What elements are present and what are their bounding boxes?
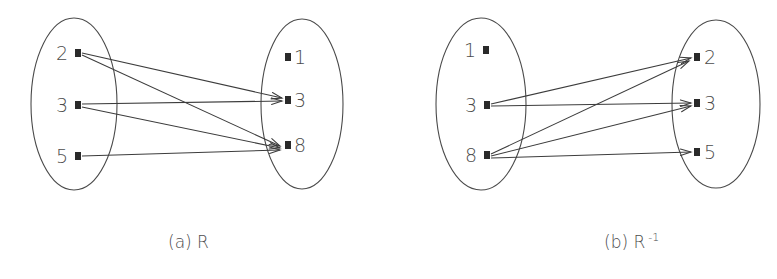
edge-2-to-3 (82, 53, 282, 98)
caption-a: (a) R (168, 232, 209, 252)
node-label-2: 2 (704, 46, 716, 68)
node-1[interactable]: 1 (464, 39, 489, 61)
node-8[interactable]: 8 (465, 144, 490, 166)
node-label-2: 2 (56, 42, 68, 64)
caption-b: (b) R-1 (604, 231, 659, 252)
node-3[interactable]: 3 (56, 94, 81, 116)
node-8[interactable]: 8 (285, 134, 306, 156)
edge-3-to-3 (491, 103, 691, 106)
node-dot-1 (483, 46, 489, 54)
node-3[interactable]: 3 (285, 89, 306, 111)
node-label-3: 3 (294, 89, 306, 111)
node-dot-5 (694, 148, 700, 156)
node-label-5: 5 (704, 141, 716, 163)
edge-8-to-2 (491, 61, 689, 154)
node-dot-8 (484, 151, 490, 159)
edge-5-to-8 (82, 150, 280, 156)
node-label-3: 3 (704, 92, 716, 114)
caption-b-prefix: (b) (604, 232, 633, 252)
node-3[interactable]: 3 (694, 92, 716, 114)
relation-diagram-figure: 235138138235(a) R(b) R-1 (0, 0, 777, 279)
diagram-a-edges (82, 53, 282, 156)
node-dot-3 (484, 101, 490, 109)
edge-8-to-3 (491, 106, 691, 156)
diagram-a: 235138 (31, 18, 343, 190)
domain-set-b-boundary (436, 18, 526, 190)
node-label-8: 8 (294, 134, 306, 156)
caption-a-text: (a) R (168, 232, 209, 252)
node-dot-3 (75, 101, 81, 109)
edge-8-to-5 (491, 152, 691, 158)
caption-b-superscript: -1 (648, 231, 659, 244)
node-1[interactable]: 1 (285, 46, 306, 68)
node-dot-8 (285, 141, 291, 149)
node-dot-1 (285, 53, 291, 61)
edge-2-to-8 (82, 55, 280, 146)
node-label-1: 1 (294, 46, 306, 68)
edge-8-to-2-arrowhead (678, 61, 689, 68)
relation-diagram-svg: 235138138235(a) R(b) R-1 (0, 0, 777, 279)
node-2[interactable]: 2 (56, 42, 81, 64)
node-label-5: 5 (56, 145, 68, 167)
node-label-3: 3 (465, 94, 477, 116)
node-5[interactable]: 5 (694, 141, 716, 163)
node-dot-3 (285, 96, 291, 104)
node-label-3: 3 (56, 94, 68, 116)
node-dot-5 (75, 152, 81, 160)
caption-a-symbol: R (197, 232, 209, 252)
node-2[interactable]: 2 (694, 46, 716, 68)
codomain-set-b: 235 (672, 20, 760, 188)
node-label-1: 1 (464, 39, 476, 61)
edge-3-to-8 (82, 107, 280, 148)
caption-b-symbol: R (633, 232, 645, 252)
node-dot-2 (75, 49, 81, 57)
caption-b-text: (b) R-1 (604, 231, 659, 252)
diagram-b: 138235 (436, 18, 760, 190)
node-3[interactable]: 3 (465, 94, 490, 116)
node-dot-3 (694, 99, 700, 107)
node-5[interactable]: 5 (56, 145, 81, 167)
domain-set-b: 138 (436, 18, 526, 190)
node-label-8: 8 (465, 144, 477, 166)
node-dot-2 (694, 53, 700, 61)
caption-a-prefix: (a) (168, 232, 197, 252)
